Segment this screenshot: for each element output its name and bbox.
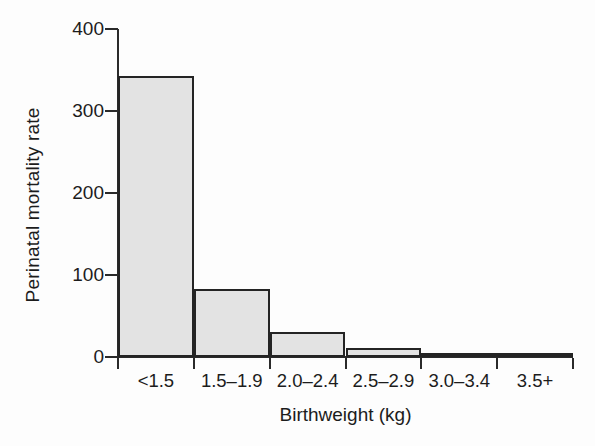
x-tick-mark [269,358,271,369]
y-tick-label: 300 [40,101,104,120]
x-tick-label: 2.0–2.4 [270,370,346,392]
x-tick-mark [193,358,195,369]
y-tick-label: 200 [40,183,104,202]
x-tick-label: 3.5+ [497,370,573,392]
x-tick-label: 3.0–3.4 [421,370,497,392]
y-tick-label: 400 [40,19,104,38]
x-tick-label: 1.5–1.9 [194,370,270,392]
y-tick-mark [105,274,118,276]
y-axis-tick-labels: 0100200300400 [32,0,104,446]
y-tick-label: 0 [40,347,104,366]
x-tick-label: 2.5–2.9 [346,370,422,392]
plot-area [118,29,573,357]
bar [194,289,270,357]
x-tick-mark [345,358,347,369]
x-tick-mark [572,358,574,369]
bar [497,353,573,357]
bar [346,348,422,357]
y-tick-mark [105,110,118,112]
x-tick-mark [117,358,119,369]
x-tick-mark [420,358,422,369]
bar [421,353,497,357]
bar [270,332,346,357]
y-tick-label: 100 [40,265,104,284]
x-tick-mark [496,358,498,369]
x-axis-title: Birthweight (kg) [118,404,573,426]
x-axis-tick-labels: <1.51.5–1.92.0–2.42.5–2.93.0–3.43.5+ [118,370,573,396]
chart-figure: Perinatal mortality rate 0100200300400 <… [0,0,595,446]
x-tick-label: <1.5 [118,370,194,392]
bar [118,76,194,357]
y-tick-mark [105,192,118,194]
y-tick-mark [105,28,118,30]
